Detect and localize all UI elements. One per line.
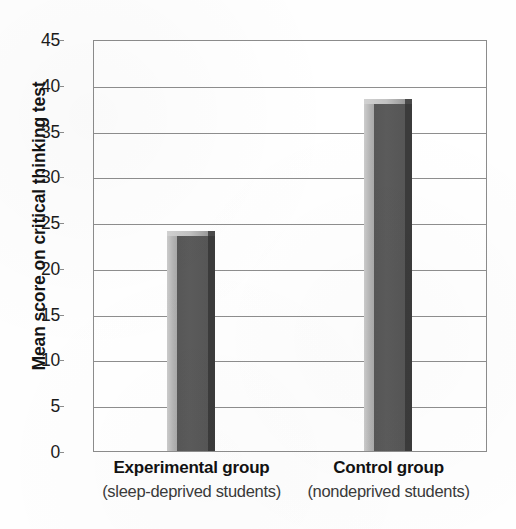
- bar: [364, 99, 412, 451]
- gridline: [94, 224, 486, 225]
- y-axis-tick-label: 30: [41, 167, 60, 188]
- bar-front-face: [374, 104, 405, 451]
- x-axis-label-group: Experimental group(sleep-deprived studen…: [93, 457, 487, 521]
- gridline: [94, 87, 486, 88]
- x-axis-category-sublabel: (sleep-deprived students): [93, 481, 290, 502]
- y-axis-tick-mark: [59, 132, 64, 133]
- y-axis-tick-mark: [59, 406, 64, 407]
- x-axis-category-name: Experimental group: [93, 457, 290, 478]
- y-axis-tick-mark: [59, 86, 64, 87]
- bar-top-right-bevel: [208, 231, 215, 236]
- bar-left-face: [167, 236, 177, 451]
- gridline: [94, 316, 486, 317]
- y-axis-tick-label: 45: [41, 30, 60, 51]
- gridline: [94, 407, 486, 408]
- x-axis-category-sublabel: (nondeprived students): [290, 481, 487, 502]
- y-axis-tick-label: 40: [41, 75, 60, 96]
- y-axis-tick-mark: [59, 177, 64, 178]
- bar-front-face: [177, 236, 208, 451]
- bar-left-face: [364, 104, 374, 451]
- y-axis-tick-mark: [59, 269, 64, 270]
- y-axis-tick-label: 20: [41, 258, 60, 279]
- gridline: [94, 178, 486, 179]
- plot-area: [93, 40, 487, 452]
- y-axis-tick-mark: [59, 452, 64, 453]
- x-axis-category-label: Experimental group(sleep-deprived studen…: [93, 457, 290, 503]
- y-axis-tick-mark: [59, 360, 64, 361]
- bar-top-face: [167, 231, 208, 236]
- y-axis-tick-label: 15: [41, 304, 60, 325]
- bar-right-face: [208, 236, 215, 451]
- bar: [167, 231, 215, 451]
- gridline: [94, 270, 486, 271]
- gridline: [94, 133, 486, 134]
- bar-top-right-bevel: [405, 99, 412, 104]
- y-axis-tick-label: 10: [41, 350, 60, 371]
- x-axis-category-label: Control group(nondeprived students): [290, 457, 487, 503]
- y-axis-tick-mark: [59, 40, 64, 41]
- y-axis-tick-group: 051015202530354045: [0, 0, 93, 529]
- x-axis-category-name: Control group: [290, 457, 487, 478]
- y-axis-tick-label: 25: [41, 213, 60, 234]
- gridline: [94, 361, 486, 362]
- bar-right-face: [405, 104, 412, 451]
- y-axis-tick-label: 35: [41, 121, 60, 142]
- y-axis-tick-mark: [59, 223, 64, 224]
- bar-top-face: [364, 99, 405, 104]
- y-axis-tick-mark: [59, 315, 64, 316]
- bar-chart-figure: Mean score on critical thinking test 051…: [0, 0, 516, 529]
